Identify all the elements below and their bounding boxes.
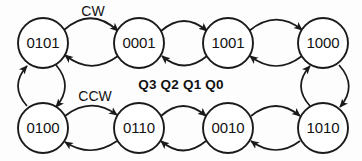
node-label-1001: 1001	[212, 34, 245, 51]
edge-0100-to-0101	[18, 66, 27, 106]
edge-group-top	[64, 18, 302, 66]
edge-1001-to-1000	[249, 20, 302, 31]
edge-1001-to-0001	[162, 56, 207, 66]
node-0101[interactable]: 0101	[18, 18, 68, 68]
node-1000[interactable]: 1000	[298, 18, 348, 68]
node-1010[interactable]: 1010	[298, 103, 348, 153]
node-0100[interactable]: 0100	[18, 103, 68, 153]
edge-0001-to-1001	[161, 21, 207, 31]
cw-direction-label: CW	[81, 3, 105, 19]
state-diagram-canvas: 0101 0001 1001 1000 1010 0010 0110	[0, 0, 362, 161]
node-0010[interactable]: 0010	[203, 103, 253, 153]
edge-0010-to-0110	[161, 141, 206, 151]
state-diagram-svg: 0101 0001 1001 1000 1010 0010 0110	[0, 0, 362, 161]
edge-0110-to-0010	[161, 106, 206, 116]
edge-0001-to-0101	[65, 55, 118, 66]
node-0110[interactable]: 0110	[114, 103, 164, 153]
edge-0101-to-0100	[56, 65, 65, 107]
node-label-0001: 0001	[123, 34, 156, 51]
node-0001[interactable]: 0001	[114, 18, 164, 68]
bit-order-legend: Q3 Q2 Q1 Q0	[138, 77, 224, 92]
edge-0010-to-1010	[251, 106, 300, 116]
node-label-0101: 0101	[27, 34, 60, 51]
node-label-1000: 1000	[307, 34, 340, 51]
node-label-0010: 0010	[212, 119, 245, 136]
edge-1000-to-1010	[339, 65, 349, 107]
edge-0101-to-0001	[64, 18, 118, 31]
node-label-0110: 0110	[123, 119, 155, 136]
edge-group-bottom	[65, 106, 300, 151]
edge-group-right	[301, 65, 349, 107]
ccw-direction-label: CCW	[78, 88, 112, 104]
edge-1010-to-0010	[251, 141, 300, 150]
node-label-0100: 0100	[27, 119, 60, 136]
edge-1000-to-1001	[250, 56, 302, 66]
node-1001[interactable]: 1001	[203, 18, 253, 68]
edge-group-left	[18, 65, 65, 107]
edge-0100-to-0110	[65, 106, 117, 116]
edge-1010-to-1000	[301, 66, 310, 106]
edge-0110-to-0100	[65, 141, 117, 150]
node-label-1010: 1010	[307, 119, 340, 136]
